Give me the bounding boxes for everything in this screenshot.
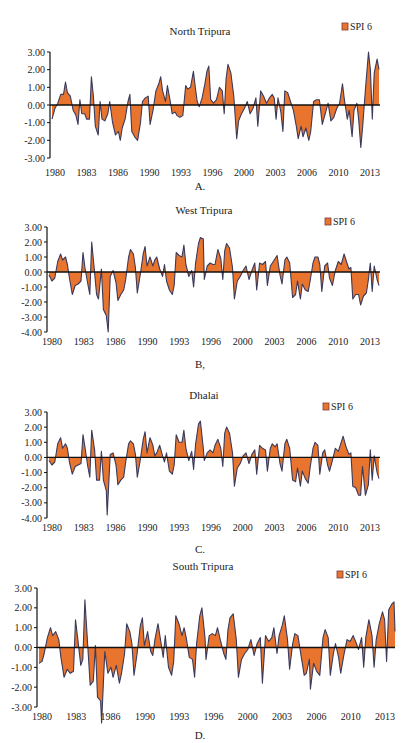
legend-swatch: [342, 23, 348, 30]
y-tick-label: -1.00: [21, 282, 42, 293]
y-tick-label: -3.00: [21, 497, 42, 508]
y-tick-label: 1.00: [25, 437, 43, 448]
x-tick-label: 1983: [74, 336, 94, 347]
x-tick-label: 2010: [328, 336, 348, 347]
chart-title: Dhalai: [189, 389, 218, 401]
y-tick-label: 0.00: [25, 452, 43, 463]
x-tick-label: 1993: [169, 711, 189, 722]
y-tick-label: -3.00: [21, 312, 42, 323]
y-tick-label: 3.00: [15, 583, 33, 594]
spi-area: [52, 52, 379, 147]
x-tick-label: 2013: [360, 522, 380, 533]
y-tick-label: -3.00: [11, 702, 32, 713]
x-tick-label: 1996: [201, 336, 221, 347]
y-tick-label: 3.00: [25, 407, 43, 418]
y-tick-label: 3.00: [25, 222, 43, 233]
x-tick-label: 2013: [375, 711, 395, 722]
legend-swatch: [337, 571, 343, 578]
legend: SPI 6: [325, 216, 355, 227]
chart-B: West TripuraSPI 63.002.001.000.00-1.00-2…: [21, 204, 380, 370]
y-tick-label: 3.00: [28, 47, 46, 58]
y-tick-label: 2.00: [25, 237, 43, 248]
chart-C: DhalaiSPI 63.002.001.000.00-1.00-2.00-3.…: [21, 389, 380, 555]
chart-title: West Tripura: [176, 204, 233, 216]
y-tick-label: -1.00: [11, 662, 32, 673]
spi-area: [49, 421, 379, 515]
x-tick-label: 2000: [238, 711, 258, 722]
x-tick-label: 2006: [296, 336, 316, 347]
x-tick-label: 1983: [74, 522, 94, 533]
x-tick-label: 2006: [297, 167, 317, 178]
legend-label: SPI 6: [331, 401, 353, 412]
x-tick-label: 2003: [265, 522, 285, 533]
y-tick-label: 1.00: [28, 82, 46, 93]
chart-A: North TripuraSPI 63.002.001.000.00-1.00-…: [24, 21, 380, 192]
y-tick-label: -2.00: [21, 297, 42, 308]
x-tick-label: 2006: [306, 711, 326, 722]
x-tick-label: 2013: [360, 336, 380, 347]
y-tick-label: 1.00: [15, 622, 33, 633]
x-tick-label: 1990: [135, 711, 155, 722]
y-tick-label: -1.00: [21, 467, 42, 478]
x-tick-label: 1993: [169, 522, 189, 533]
legend: SPI 6: [342, 21, 372, 32]
panel-caption: A.: [195, 180, 206, 192]
x-tick-label: 2003: [266, 167, 286, 178]
x-tick-label: 1990: [137, 336, 157, 347]
panel-caption: D.: [195, 729, 206, 741]
x-tick-label: 1986: [108, 167, 128, 178]
x-tick-label: 2010: [328, 522, 348, 533]
legend-label: SPI 6: [333, 216, 355, 227]
y-tick-label: -1.00: [24, 117, 45, 128]
x-tick-label: 1980: [42, 336, 62, 347]
x-tick-label: 1993: [169, 336, 189, 347]
legend-swatch: [323, 403, 329, 410]
x-tick-label: 1996: [201, 522, 221, 533]
chart-title: South Tripura: [173, 560, 234, 572]
y-tick-label: -3.00: [24, 153, 45, 164]
x-tick-label: 2000: [233, 522, 253, 533]
spi-area: [39, 600, 395, 723]
x-tick-label: 2000: [233, 336, 253, 347]
x-tick-label: 1986: [106, 522, 126, 533]
y-tick-label: -4.00: [21, 327, 42, 338]
x-tick-label: 1996: [203, 167, 223, 178]
y-tick-label: 0.00: [28, 100, 46, 111]
x-tick-label: 1980: [32, 711, 52, 722]
chart-title: North Tripura: [170, 25, 231, 37]
spi-line: [52, 52, 379, 147]
panel-caption: B,: [195, 358, 205, 370]
y-tick-label: -4.00: [21, 513, 42, 524]
x-tick-label: 1990: [140, 167, 160, 178]
x-tick-label: 1980: [45, 167, 65, 178]
x-tick-label: 1983: [66, 711, 86, 722]
x-tick-label: 1986: [106, 336, 126, 347]
x-tick-label: 1993: [171, 167, 191, 178]
spi-area: [49, 238, 379, 333]
x-tick-label: 2003: [272, 711, 292, 722]
y-tick-label: 1.00: [25, 252, 43, 263]
x-tick-label: 2006: [296, 522, 316, 533]
chart-D: South TripuraSPI 63.002.001.000.00-1.00-…: [11, 560, 395, 741]
y-tick-label: -2.00: [21, 482, 42, 493]
y-tick-label: 2.00: [28, 64, 46, 75]
x-tick-label: 2003: [265, 336, 285, 347]
y-tick-label: -2.00: [11, 682, 32, 693]
legend-label: SPI 6: [345, 569, 367, 580]
x-tick-label: 1983: [77, 167, 97, 178]
x-tick-label: 2010: [329, 167, 349, 178]
x-tick-label: 2010: [341, 711, 361, 722]
y-tick-label: -2.00: [24, 135, 45, 146]
spi6-chart-figure: North TripuraSPI 63.002.001.000.00-1.00-…: [0, 0, 413, 743]
y-tick-label: 0.00: [25, 267, 43, 278]
y-tick-label: 2.00: [25, 422, 43, 433]
y-tick-label: 2.00: [15, 602, 33, 613]
x-tick-label: 1990: [137, 522, 157, 533]
x-tick-label: 2000: [234, 167, 254, 178]
x-tick-label: 2013: [360, 167, 380, 178]
panel-caption: C.: [195, 543, 205, 555]
x-tick-label: 1986: [101, 711, 121, 722]
x-tick-label: 1996: [204, 711, 224, 722]
legend-swatch: [325, 218, 331, 225]
y-tick-label: 0.00: [15, 642, 33, 653]
